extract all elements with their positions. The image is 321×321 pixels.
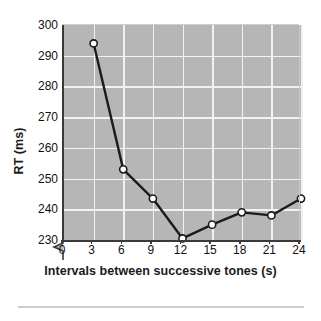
plot-area xyxy=(62,25,301,240)
y-tick-label: 290 xyxy=(24,50,58,62)
y-tick-label: 300 xyxy=(24,19,58,31)
y-tick-label: 240 xyxy=(24,203,58,215)
data-point-marker xyxy=(90,40,97,47)
x-tick-mark xyxy=(239,240,241,244)
gridline-vertical xyxy=(301,25,303,240)
x-tick-label: 12 xyxy=(166,244,196,256)
y-tick-label: 250 xyxy=(24,173,58,185)
x-tick-label: 21 xyxy=(254,244,284,256)
data-point-marker xyxy=(238,209,245,216)
x-tick-label: 24 xyxy=(284,244,314,256)
x-axis-line xyxy=(62,240,301,242)
data-point-marker xyxy=(149,195,156,202)
plot-right-edge xyxy=(299,25,300,240)
y-tick-label: 260 xyxy=(24,142,58,154)
x-tick-label: 9 xyxy=(136,244,166,256)
series-line xyxy=(94,43,301,238)
data-point-marker xyxy=(209,221,216,228)
x-tick-mark xyxy=(298,240,300,244)
x-tick-label: 18 xyxy=(225,244,255,256)
x-tick-mark xyxy=(180,240,182,244)
data-series-svg xyxy=(64,25,301,240)
x-axis-tick-labels: 03691215182124 xyxy=(0,244,321,262)
x-tick-mark xyxy=(121,240,123,244)
x-tick-mark xyxy=(209,240,211,244)
x-tick-label: 6 xyxy=(106,244,136,256)
x-tick-label: 15 xyxy=(195,244,225,256)
plot-top-edge xyxy=(62,24,299,25)
footer-divider xyxy=(18,306,304,308)
x-tick-mark xyxy=(91,240,93,244)
plot-inner xyxy=(64,25,301,240)
x-axis-title: Intervals between successive tones (s) xyxy=(0,264,321,278)
x-tick-mark xyxy=(269,240,271,244)
x-tick-mark xyxy=(61,240,63,244)
x-tick-label: 0 xyxy=(47,244,77,256)
data-point-marker xyxy=(268,212,275,219)
x-tick-mark xyxy=(150,240,152,244)
data-point-marker xyxy=(120,166,127,173)
y-tick-label: 280 xyxy=(24,80,58,92)
y-tick-label: 270 xyxy=(24,111,58,123)
x-tick-label: 3 xyxy=(77,244,107,256)
chart-figure: RT (ms) 300290280270260250240230 0369121… xyxy=(0,0,321,321)
